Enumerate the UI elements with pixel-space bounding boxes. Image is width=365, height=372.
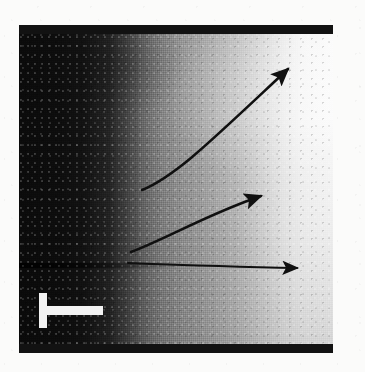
bottom-edge-bar [19,344,333,353]
top-edge-bar [19,25,333,34]
figure-root: Grayscale micrograph with a left-to-righ… [0,0,365,372]
scale-bar [39,293,103,328]
dark-streak [19,263,179,268]
figure-alt-text: Grayscale micrograph with a left-to-righ… [0,0,1,1]
scale-bar-arm [39,306,103,315]
